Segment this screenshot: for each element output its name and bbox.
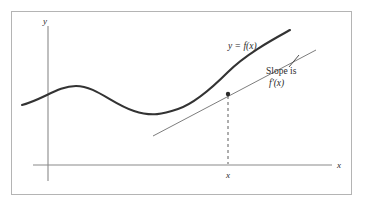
tangency-point bbox=[226, 92, 230, 96]
figure-container: y x x y = f(x) Slope is f'(x) bbox=[0, 0, 366, 211]
derivative-diagram: y x x y = f(x) Slope is f'(x) bbox=[0, 0, 366, 211]
tangent-line bbox=[153, 50, 316, 136]
figure-border bbox=[12, 12, 352, 195]
slope-annotation-line1: Slope is bbox=[266, 66, 297, 76]
x-axis-label: x bbox=[336, 160, 341, 170]
y-axis-label: y bbox=[42, 16, 47, 26]
curve-label: y = f(x) bbox=[227, 41, 257, 52]
slope-annotation-line2: f'(x) bbox=[269, 78, 284, 89]
x-tick-label: x bbox=[225, 170, 230, 180]
